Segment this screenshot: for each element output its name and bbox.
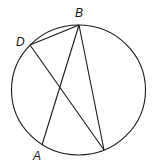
label-d: D [16, 35, 25, 49]
chord-be [79, 25, 104, 150]
label-a: A [32, 149, 41, 163]
chord-de [30, 45, 104, 150]
chord-ba [42, 25, 79, 145]
chord-db [30, 25, 79, 45]
label-b: B [75, 6, 83, 20]
circle-diagram: B D A [0, 0, 155, 167]
